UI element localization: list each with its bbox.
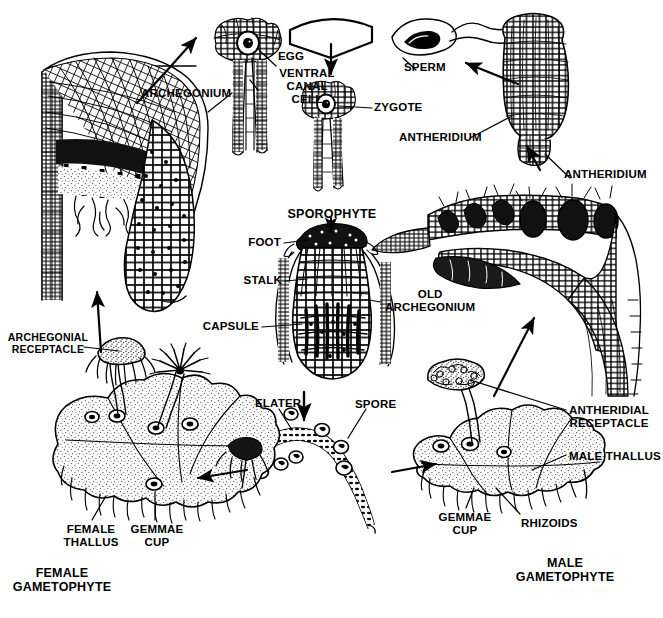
male-gametophyte-thallus <box>413 359 604 513</box>
label-stalk: STALK <box>244 274 282 287</box>
label-rhizoids: RHIZOIDS <box>521 517 578 530</box>
label-antheridium-left: ANTHERIDIUM <box>399 131 482 144</box>
label-archegonium: ARCHEGONIUM <box>141 87 231 100</box>
label-old-archegonium: OLD ARCHEGONIUM <box>385 288 475 314</box>
fertilization-bracket <box>290 19 372 44</box>
female-gametophyte-thallus <box>53 338 280 523</box>
label-elater: ELATER <box>255 397 301 410</box>
label-male-thallus: MALE THALLUS <box>569 450 661 463</box>
label-ventral-canal-cell: VENTRAL CANAL CELL <box>279 67 335 106</box>
label-male-gametophyte: MALE GAMETOPHYTE <box>516 556 615 584</box>
arrow-male-to-antheridial <box>494 318 534 396</box>
label-gemmae-cup-male: GEMMAE CUP <box>439 511 492 537</box>
label-female-gametophyte: FEMALE GAMETOPHYTE <box>13 566 112 594</box>
label-archegonial-receptacle: ARCHEGONIAL RECEPTACLE <box>8 332 88 356</box>
label-zygote: ZYGOTE <box>374 101 422 114</box>
label-sperm: SPERM <box>404 61 446 74</box>
label-foot: FOOT <box>248 236 281 249</box>
liverwort-life-cycle-diagram: ARCHEGONIUM EGG VENTRAL CANAL CELL SPERM… <box>0 0 663 618</box>
label-sporophyte: SPOROPHYTE <box>288 207 377 221</box>
label-gemmae-cup-female: GEMMAE CUP <box>131 523 184 549</box>
label-capsule: CAPSULE <box>203 320 259 333</box>
label-egg: EGG <box>278 50 304 63</box>
arrow-female-to-receptacle <box>97 292 101 352</box>
label-antheridial-receptacle: ANTHERIDIAL RECEPTACLE <box>569 404 649 430</box>
antheridium-structure <box>503 14 569 167</box>
label-spore: SPORE <box>355 398 396 411</box>
label-antheridium-right: ANTHERIDIUM <box>564 168 647 181</box>
label-female-thallus: FEMALE THALLUS <box>63 523 118 549</box>
